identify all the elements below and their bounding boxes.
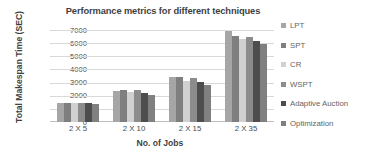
legend-item[interactable]: Adaptive Auction	[281, 94, 365, 114]
bar	[232, 36, 239, 122]
bar	[85, 103, 92, 122]
y-axis-title: Total Makespan Time (SEC)	[14, 7, 24, 127]
legend-label: LPT	[290, 21, 304, 30]
bar-group	[50, 30, 106, 122]
legend-item[interactable]: Optimization	[281, 114, 365, 134]
bar	[78, 103, 85, 122]
bar	[148, 95, 155, 122]
bar-group	[162, 30, 218, 122]
bar	[225, 31, 232, 122]
bar	[127, 92, 134, 122]
bar	[92, 104, 99, 122]
legend-swatch-icon	[281, 43, 286, 48]
bar	[141, 93, 148, 122]
legend-swatch-icon	[281, 82, 286, 87]
bar	[134, 90, 141, 122]
plot-area	[50, 30, 274, 122]
bar	[71, 103, 78, 122]
bar	[113, 91, 120, 122]
bar	[120, 90, 127, 122]
bar	[204, 85, 211, 122]
x-tick-label: 2 X 10	[106, 124, 162, 133]
legend-label: SPT	[290, 41, 305, 50]
bar-groups	[50, 30, 274, 122]
bar	[183, 81, 190, 122]
legend-swatch-icon	[281, 23, 286, 28]
bar	[253, 41, 260, 122]
legend-item[interactable]: LPT	[281, 16, 365, 36]
x-tick-label: 2 X 5	[50, 124, 106, 133]
legend-item[interactable]: SPT	[281, 36, 365, 56]
bar	[64, 103, 71, 122]
legend-item[interactable]: WSPT	[281, 75, 365, 95]
x-axis-tick-labels: 2 X 52 X 102 X 152 X 35	[50, 124, 274, 133]
bar	[190, 78, 197, 122]
legend-swatch-icon	[281, 101, 286, 106]
x-tick-label: 2 X 35	[218, 124, 274, 133]
bar	[176, 77, 183, 122]
bar	[239, 39, 246, 122]
bar	[57, 103, 64, 122]
bar-group	[106, 30, 162, 122]
bar	[246, 37, 253, 122]
bar-chart: Performance metrics for different techni…	[0, 0, 365, 157]
x-axis-title: No. of Jobs	[45, 138, 275, 148]
bar-group	[218, 30, 274, 122]
legend-label: Adaptive Auction	[290, 99, 348, 108]
bar	[197, 82, 204, 122]
legend-label: Optimization	[290, 119, 333, 128]
legend: LPTSPTCRWSPTAdaptive AuctionOptimization	[281, 16, 365, 133]
legend-swatch-icon	[281, 62, 286, 67]
x-tick-label: 2 X 15	[162, 124, 218, 133]
legend-item[interactable]: CR	[281, 55, 365, 75]
bar	[169, 77, 176, 122]
bar	[260, 44, 267, 122]
legend-swatch-icon	[281, 121, 286, 126]
legend-label: CR	[290, 60, 301, 69]
chart-title: Performance metrics for different techni…	[52, 6, 274, 16]
legend-label: WSPT	[290, 80, 313, 89]
